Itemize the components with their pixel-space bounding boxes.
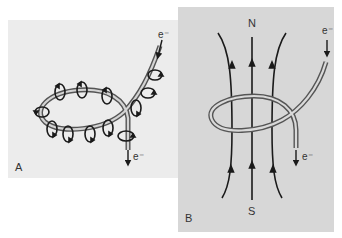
panel-b: e⁻ e⁻ N S B	[178, 7, 334, 232]
panel-b-label: B	[185, 212, 192, 224]
panel-b-background	[178, 7, 334, 232]
panel-b-electron-in-label: e⁻	[322, 25, 333, 36]
panel-b-electron-out-label: e⁻	[302, 151, 313, 162]
diagram-canvas: e⁻ e⁻ A e⁻ e⁻ N S B	[0, 0, 342, 238]
panel-a-electron-in-label: e⁻	[158, 29, 169, 40]
panel-a-background	[8, 20, 178, 178]
north-pole-label: N	[248, 17, 256, 29]
panel-a-label: A	[15, 161, 23, 173]
south-pole-label: S	[248, 205, 255, 217]
panel-a-electron-out-label: e⁻	[133, 151, 144, 162]
panel-a: e⁻ e⁻ A	[8, 20, 178, 178]
